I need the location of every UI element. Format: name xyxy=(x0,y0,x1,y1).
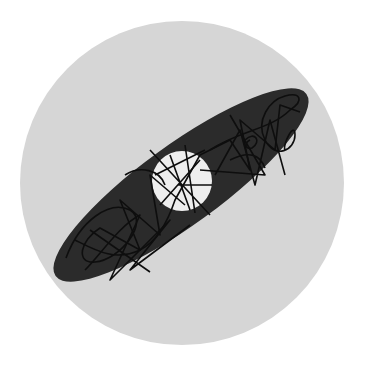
diagram-canvas xyxy=(0,0,365,367)
orbit-diagram xyxy=(0,0,365,367)
